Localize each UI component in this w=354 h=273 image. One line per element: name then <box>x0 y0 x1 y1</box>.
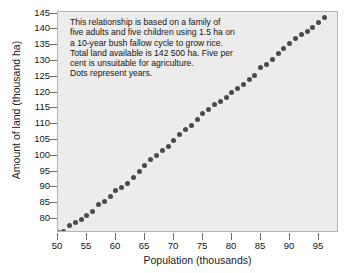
x-axis-tick-label: 75 <box>190 241 214 251</box>
data-point <box>305 29 310 34</box>
chart-annotation: This relationship is based on a family o… <box>70 17 235 79</box>
y-axis-tick-label: 90 <box>24 181 50 190</box>
data-point <box>183 127 188 132</box>
data-point <box>258 65 263 70</box>
data-point <box>79 217 84 222</box>
data-point <box>189 123 194 128</box>
data-point <box>142 163 147 168</box>
data-point <box>322 15 327 20</box>
data-point <box>177 132 182 137</box>
x-axis-tick-label: 90 <box>277 241 301 251</box>
data-point <box>108 194 113 199</box>
data-point <box>90 209 95 214</box>
x-axis-tick <box>144 233 145 240</box>
y-axis-tick-label: 125 <box>24 71 50 80</box>
y-axis-tick <box>50 13 57 14</box>
y-axis-tick-label: 100 <box>24 150 50 159</box>
y-axis-tick <box>50 171 57 172</box>
annotation-line: cent is unsuitable for agriculture. <box>70 58 235 68</box>
x-axis-title: Population (thousands) <box>57 254 338 266</box>
data-point <box>235 86 240 91</box>
y-axis-tick <box>50 92 57 93</box>
annotation-line: five adults and five children using 1.5 … <box>70 27 235 37</box>
y-axis-tick <box>50 107 57 108</box>
data-point <box>96 202 101 207</box>
data-point <box>310 25 315 30</box>
x-axis-tick-label: 55 <box>74 241 98 251</box>
data-point <box>224 95 229 100</box>
data-point <box>166 144 171 149</box>
y-axis-tick <box>50 186 57 187</box>
x-axis-tick <box>173 233 174 240</box>
annotation-line: a 10-year bush fallow cycle to grow rice… <box>70 38 235 48</box>
annotation-line: Dots represent years. <box>70 68 235 78</box>
data-point <box>287 41 292 46</box>
data-point <box>241 82 246 87</box>
y-axis-tick-label: 110 <box>24 118 50 127</box>
y-axis-tick <box>50 155 57 156</box>
data-point <box>119 185 124 190</box>
y-axis-tick <box>50 76 57 77</box>
plot-area: This relationship is based on a family o… <box>57 11 338 232</box>
y-axis-tick-label: 145 <box>24 8 50 17</box>
x-axis-tick-label: 85 <box>248 241 272 251</box>
x-axis-tick <box>57 233 58 240</box>
y-axis-tick-label: 85 <box>24 197 50 206</box>
data-point <box>102 199 107 204</box>
x-axis-tick-label: 95 <box>306 241 330 251</box>
data-point <box>206 107 211 112</box>
y-axis-tick-label: 135 <box>24 39 50 48</box>
data-point <box>137 169 142 174</box>
x-axis-tick-label: 65 <box>132 241 156 251</box>
data-point <box>154 153 159 158</box>
x-axis-tick <box>202 233 203 240</box>
data-point <box>148 157 153 162</box>
x-axis-tick <box>318 233 319 240</box>
data-point <box>212 102 217 107</box>
y-axis-tick <box>50 139 57 140</box>
data-point <box>281 46 286 51</box>
data-point <box>61 229 66 232</box>
data-point <box>247 77 252 82</box>
x-axis-tick <box>86 233 87 240</box>
y-axis-tick <box>50 123 57 124</box>
y-axis-tick <box>50 218 57 219</box>
data-point <box>195 117 200 122</box>
data-point <box>57 230 61 232</box>
x-axis-tick-label: 70 <box>161 241 185 251</box>
data-point <box>160 148 165 153</box>
x-axis-tick-label: 80 <box>219 241 243 251</box>
y-axis-tick-label: 115 <box>24 102 50 111</box>
y-axis-title: Amount of land (thousand ha) <box>10 0 22 220</box>
y-axis-tick-label: 130 <box>24 55 50 64</box>
data-point <box>276 51 281 56</box>
y-axis-tick-label: 95 <box>24 166 50 175</box>
annotation-line: Total land available is 142 500 ha. Five… <box>70 48 235 58</box>
chart-figure: Amount of land (thousand ha) 80859095100… <box>0 0 354 273</box>
data-point <box>264 62 269 67</box>
x-axis-tick-label: 60 <box>103 241 127 251</box>
x-axis-tick <box>260 233 261 240</box>
x-axis-tick <box>231 233 232 240</box>
data-point <box>113 188 118 193</box>
y-axis-tick-label: 105 <box>24 134 50 143</box>
y-axis-tick-label: 140 <box>24 23 50 32</box>
data-point <box>252 73 257 78</box>
y-axis-tick-label: 120 <box>24 87 50 96</box>
data-point <box>131 175 136 180</box>
data-point <box>67 223 72 228</box>
data-point <box>293 36 298 41</box>
data-point <box>84 213 89 218</box>
data-point <box>200 111 205 116</box>
data-point <box>125 181 130 186</box>
x-axis-tick-label: 50 <box>45 241 69 251</box>
data-point <box>299 32 304 37</box>
data-point <box>73 220 78 225</box>
data-point <box>171 138 176 143</box>
y-axis-tick <box>50 28 57 29</box>
y-axis-tick <box>50 60 57 61</box>
data-point <box>270 57 275 62</box>
x-axis-tick <box>289 233 290 240</box>
y-axis-tick-label: 80 <box>24 213 50 222</box>
data-point <box>218 99 223 104</box>
